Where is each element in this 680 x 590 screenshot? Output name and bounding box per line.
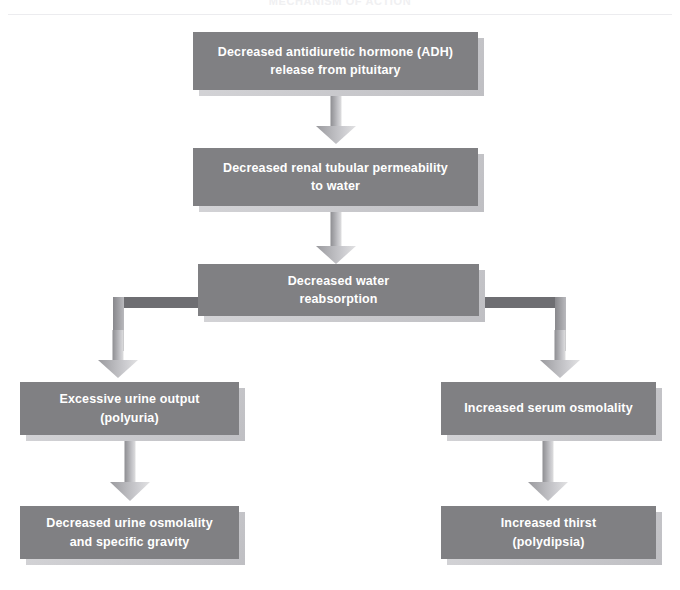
- node-reabsorption-line2: reabsorption: [288, 290, 390, 308]
- node-urine-osmolality-line1: Decreased urine osmolality: [46, 514, 212, 532]
- node-polyuria-line2: (polyuria): [59, 409, 199, 427]
- node-adh-line1: Decreased antidiuretic hormone (ADH): [218, 43, 453, 61]
- node-permeability: Decreased renal tubular permeability to …: [193, 148, 478, 206]
- node-polyuria-line1: Excessive urine output: [59, 390, 199, 408]
- node-reabsorption: Decreased water reabsorption: [198, 264, 479, 316]
- arrow-reabsorption-to-serum-osmolality: [540, 330, 580, 378]
- node-reabsorption-line1: Decreased water: [288, 272, 390, 290]
- node-polyuria: Excessive urine output (polyuria): [20, 382, 239, 435]
- node-serum-osmolality: Increased serum osmolality: [441, 382, 656, 435]
- flowchart-canvas: MECHANISM OF ACTION Decreased antidiuret…: [0, 0, 680, 590]
- arrow-permeability-to-reabsorption: [316, 212, 356, 264]
- arrow-reabsorption-to-polyuria: [98, 330, 138, 378]
- node-urine-osmolality-line2: and specific gravity: [46, 533, 212, 551]
- node-thirst-line2: (polydipsia): [501, 533, 597, 551]
- node-permeability-line1: Decreased renal tubular permeability: [223, 159, 448, 177]
- node-adh-line2: release from pituitary: [218, 61, 453, 79]
- node-urine-osmolality: Decreased urine osmolality and specific …: [20, 506, 239, 559]
- arrow-polyuria-to-urine-osmolality: [110, 441, 150, 501]
- node-serum-osmolality-line1: Increased serum osmolality: [464, 399, 633, 417]
- header-divider: [8, 14, 672, 15]
- node-thirst-line1: Increased thirst: [501, 514, 597, 532]
- node-permeability-line2: to water: [223, 177, 448, 195]
- node-thirst: Increased thirst (polydipsia): [441, 506, 656, 559]
- connector-bar-left: [113, 297, 205, 308]
- arrow-serum-osmolality-to-thirst: [528, 441, 568, 501]
- node-adh: Decreased antidiuretic hormone (ADH) rel…: [193, 32, 478, 90]
- connector-bar-right: [474, 297, 566, 308]
- page-title: MECHANISM OF ACTION: [0, 0, 680, 8]
- arrow-adh-to-permeability: [316, 96, 356, 144]
